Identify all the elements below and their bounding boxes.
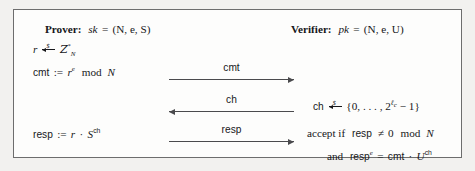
commit-modulus: N: [107, 66, 114, 78]
commit-mod-operator: mod: [82, 66, 102, 78]
message-label-resp: resp: [169, 124, 294, 135]
dollar-sign: $: [333, 100, 336, 107]
prover-key-name: sk: [88, 23, 97, 35]
response-factor: r: [71, 128, 75, 140]
check-two-prefix: and: [327, 150, 343, 162]
response-name: resp: [33, 129, 53, 140]
check-two-lhs-name: resp: [350, 151, 370, 162]
arrow-head-right: [288, 139, 294, 145]
verifier-header: Verifier: pk = (N, e, U): [291, 24, 404, 35]
check-two-equals: =: [377, 150, 383, 162]
check-two-dot: ·: [409, 150, 413, 162]
verifier-role-label: Verifier:: [291, 23, 332, 35]
sample-variable: r: [33, 43, 37, 55]
check-two-rhs-base: U: [417, 150, 425, 162]
challenge-variable: ch: [313, 101, 324, 112]
verifier-key-name: pk: [338, 23, 349, 35]
commit-exponent: e: [72, 65, 75, 73]
commit-assign: :=: [54, 66, 63, 78]
prover-commit-line: cmt := re mod N: [33, 67, 115, 78]
prover-role-label: Prover:: [45, 23, 81, 35]
response-assign: :=: [57, 128, 66, 140]
arrow-head-right: [288, 77, 294, 83]
sample-set-subscript: N: [71, 50, 76, 58]
check-one-mod-operator: mod: [400, 127, 420, 139]
check-two-lhs-exponent: e: [370, 149, 373, 157]
prover-response-line: resp := r · Sch: [33, 129, 100, 140]
arrow-shaft: [169, 141, 294, 142]
arrow-shaft: [169, 79, 294, 80]
verifier-challenge-line: ch $ {0, . . . , 2ℓc − 1}: [313, 99, 420, 112]
check-one-prefix: accept if: [307, 127, 345, 139]
check-one-name: resp: [352, 128, 372, 139]
check-two-rhs-first: cmt: [388, 151, 404, 162]
message-label-ch: ch: [169, 94, 294, 105]
sample-set: Z*N: [60, 43, 75, 55]
prover-sample-r: r $ Z*N: [33, 42, 75, 55]
commit-name: cmt: [33, 67, 49, 78]
prover-key-value: (N, e, S): [112, 23, 150, 35]
dollar-sign: $: [46, 43, 49, 50]
arrow-head-left: [169, 109, 175, 115]
random-sample-arrow-icon: $: [329, 99, 342, 110]
message-label-cmt: cmt: [169, 62, 294, 73]
verifier-key-value: (N, e, U): [364, 23, 404, 35]
message-arrow-ch: ch: [169, 92, 294, 112]
prover-header: Prover: sk = (N, e, S): [45, 24, 150, 35]
random-sample-arrow-icon: $: [42, 42, 55, 53]
protocol-figure: Prover: sk = (N, e, S) r $ Z*N cmt := re…: [13, 9, 462, 158]
sample-set-superscript: *: [68, 43, 71, 49]
message-arrow-cmt: cmt: [169, 60, 294, 80]
message-arrow-resp: resp: [169, 122, 294, 142]
check-one-value: 0: [388, 127, 394, 139]
challenge-set-close: − 1}: [397, 100, 420, 112]
response-dot: ·: [80, 128, 84, 140]
arrow-shaft: [169, 111, 294, 112]
response-exponent: ch: [93, 127, 100, 134]
check-one-modulus: N: [426, 127, 433, 139]
verifier-check-nonzero: accept if resp ≠ 0 mod N: [307, 128, 434, 139]
sample-set-symbol: Z: [60, 43, 68, 56]
verifier-check-equation: and respe = cmt · Uch: [327, 151, 432, 162]
check-one-relation: ≠: [378, 127, 384, 139]
challenge-set-open: {0, . . . , 2: [346, 100, 391, 112]
check-two-rhs-exponent: ch: [425, 149, 432, 156]
